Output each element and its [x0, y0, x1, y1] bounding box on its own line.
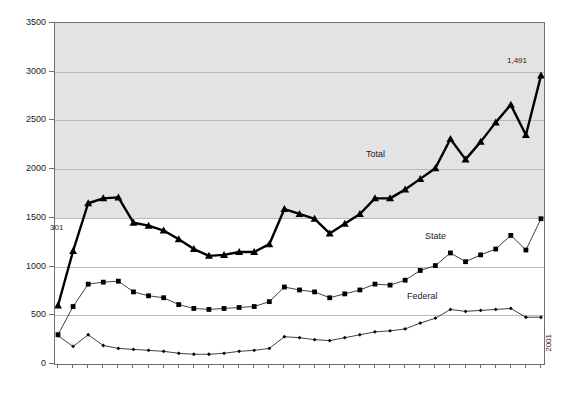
data-point — [327, 295, 332, 300]
data-point — [403, 278, 408, 283]
data-point — [298, 336, 302, 340]
data-point — [342, 291, 347, 296]
data-point — [433, 316, 437, 320]
series-line-state — [58, 219, 541, 335]
data-point — [207, 352, 211, 356]
data-point — [479, 309, 483, 313]
annotation-start-state: 301 — [50, 223, 63, 232]
data-point — [237, 305, 242, 310]
data-point — [282, 285, 287, 290]
data-point — [146, 293, 151, 298]
data-point — [448, 251, 453, 256]
data-point — [116, 279, 121, 284]
y-tick-label-3500: 3500 — [0, 17, 46, 27]
data-point — [280, 205, 288, 212]
data-point — [132, 347, 136, 351]
data-point — [478, 252, 483, 257]
data-point — [373, 330, 377, 334]
data-point — [507, 101, 515, 108]
data-point — [252, 348, 256, 352]
data-point — [71, 304, 76, 309]
data-point — [313, 338, 317, 342]
data-point — [524, 248, 529, 253]
series-label-state: State — [425, 231, 446, 241]
data-point — [207, 307, 212, 312]
data-point — [237, 349, 241, 353]
data-point — [539, 216, 544, 221]
data-point — [508, 233, 513, 238]
data-point — [55, 302, 62, 309]
data-point — [418, 321, 422, 325]
data-point — [177, 351, 181, 355]
x-tick-label-2001: 2001 — [544, 334, 553, 368]
series-total — [55, 72, 544, 309]
data-point — [192, 352, 196, 356]
y-tick-label-500: 500 — [0, 309, 46, 319]
plot-area: Total State Federal 301 1,491 — [54, 22, 545, 365]
data-point — [252, 304, 257, 309]
data-point — [446, 135, 454, 142]
data-point — [116, 347, 120, 351]
data-point — [222, 351, 226, 355]
y-tick-label-2500: 2500 — [0, 114, 46, 124]
data-point — [464, 309, 468, 313]
data-point — [312, 290, 317, 295]
data-point — [463, 259, 468, 264]
data-point — [161, 295, 166, 300]
data-point — [147, 348, 151, 352]
chart-page: 0500100015002000250030003500 19691970197… — [0, 0, 561, 408]
y-tick-label-1000: 1000 — [0, 261, 46, 271]
series-federal — [56, 307, 543, 357]
data-point — [162, 349, 166, 353]
data-point — [433, 263, 438, 268]
annotation-end-state: 1,491 — [507, 56, 527, 65]
data-point — [357, 288, 362, 293]
data-point — [131, 290, 136, 295]
data-point — [101, 280, 106, 285]
data-point — [222, 306, 227, 311]
data-point — [358, 333, 362, 337]
data-point — [388, 329, 392, 333]
y-tick-label-1500: 1500 — [0, 212, 46, 222]
series-state — [56, 216, 544, 337]
data-point — [537, 72, 544, 79]
data-point — [403, 327, 407, 331]
data-point — [509, 307, 513, 311]
series-label-total: Total — [366, 149, 385, 159]
data-point — [373, 282, 378, 287]
y-tick-label-0: 0 — [0, 358, 46, 368]
series-label-federal: Federal — [407, 291, 438, 301]
data-point — [493, 247, 498, 252]
data-point — [86, 282, 91, 287]
data-point — [449, 308, 453, 312]
data-point — [297, 288, 302, 293]
data-point — [267, 299, 272, 304]
data-point — [388, 283, 393, 288]
chart-title-remnant — [150, 0, 450, 6]
data-point — [328, 339, 332, 343]
data-point — [176, 302, 181, 307]
series-line-federal — [58, 308, 541, 354]
data-point — [191, 306, 196, 311]
data-point — [524, 315, 528, 319]
series-layer — [55, 23, 544, 364]
series-line-total — [58, 76, 541, 306]
y-tick-label-3000: 3000 — [0, 66, 46, 76]
data-point — [494, 308, 498, 312]
data-point — [539, 315, 543, 319]
data-point — [265, 240, 273, 247]
data-point — [418, 268, 423, 273]
data-point — [69, 247, 77, 254]
data-point — [343, 336, 347, 340]
y-tick-label-2000: 2000 — [0, 163, 46, 173]
